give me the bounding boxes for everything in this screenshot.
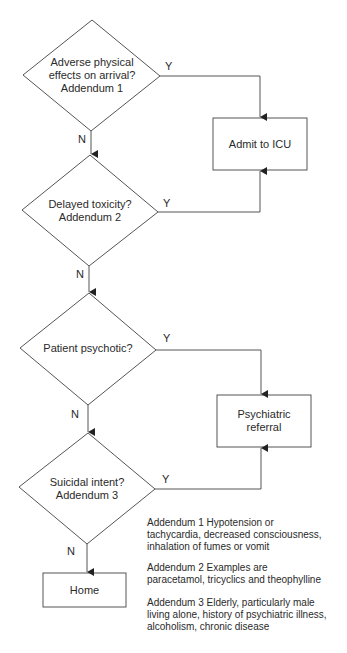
decision-suicidal-intent-label: Suicidal intent? Addendum 3 bbox=[27, 476, 147, 502]
decision-patient-psychotic-label: Patient psychotic? bbox=[28, 342, 148, 355]
edge-d4-yes bbox=[155, 448, 261, 489]
outcome-home-label: Home bbox=[43, 584, 126, 597]
text-line: Psychiatric bbox=[217, 408, 311, 421]
edge-label-d4-yes: Y bbox=[162, 473, 169, 485]
edge-label-d3-no: N bbox=[71, 408, 79, 420]
text-line: Addendum 2 bbox=[30, 211, 150, 224]
text-line: Addendum 2 Examples are bbox=[147, 562, 347, 574]
text-line: Suicidal intent? bbox=[27, 476, 147, 489]
edge-label-d2-no: N bbox=[76, 268, 84, 280]
addendum-1: Addendum 1 Hypotension or tachycardia, d… bbox=[147, 517, 347, 553]
edge-d1-yes bbox=[160, 76, 260, 117]
outcome-admit-icu-label: Admit to ICU bbox=[213, 138, 307, 151]
edge-label-d4-no: N bbox=[67, 545, 75, 557]
text-line: referral bbox=[217, 421, 311, 434]
text-line: effects on arrival? bbox=[32, 69, 152, 82]
decision-adverse-effects-label: Adverse physical effects on arrival? Add… bbox=[32, 56, 152, 95]
text-line: living alone, history of psychiatric ill… bbox=[147, 609, 347, 621]
text-line: inhalation of fumes or vomit bbox=[147, 541, 347, 553]
text-line: alcoholism, chronic disease bbox=[147, 621, 347, 633]
text-line: Home bbox=[43, 584, 126, 597]
edge-label-d1-yes: Y bbox=[165, 60, 172, 72]
text-line: Admit to ICU bbox=[213, 138, 307, 151]
edge-label-d3-yes: Y bbox=[163, 332, 170, 344]
edge-d3-yes bbox=[156, 350, 261, 394]
text-line: paracetamol, tricyclics and theophylline bbox=[147, 574, 347, 586]
addendum-3: Addendum 3 Elderly, particularly male li… bbox=[147, 597, 347, 633]
text-line: Adverse physical bbox=[32, 56, 152, 69]
text-line: Addendum 3 Elderly, particularly male bbox=[147, 597, 347, 609]
flowchart-canvas bbox=[0, 0, 347, 653]
decision-delayed-toxicity-label: Delayed toxicity? Addendum 2 bbox=[30, 198, 150, 224]
text-line: Patient psychotic? bbox=[28, 342, 148, 355]
text-line: Delayed toxicity? bbox=[30, 198, 150, 211]
outcome-psychiatric-referral-label: Psychiatric referral bbox=[217, 408, 311, 434]
text-line: Addendum 1 Hypotension or bbox=[147, 517, 347, 529]
addendum-2: Addendum 2 Examples are paracetamol, tri… bbox=[147, 562, 347, 586]
text-line: Addendum 1 bbox=[32, 82, 152, 95]
text-line: tachycardia, decreased consciousness, bbox=[147, 529, 347, 541]
edge-label-d1-no: N bbox=[78, 133, 86, 145]
text-line: Addendum 3 bbox=[27, 489, 147, 502]
edge-label-d2-yes: Y bbox=[163, 197, 170, 209]
edge-d2-yes bbox=[158, 171, 260, 212]
